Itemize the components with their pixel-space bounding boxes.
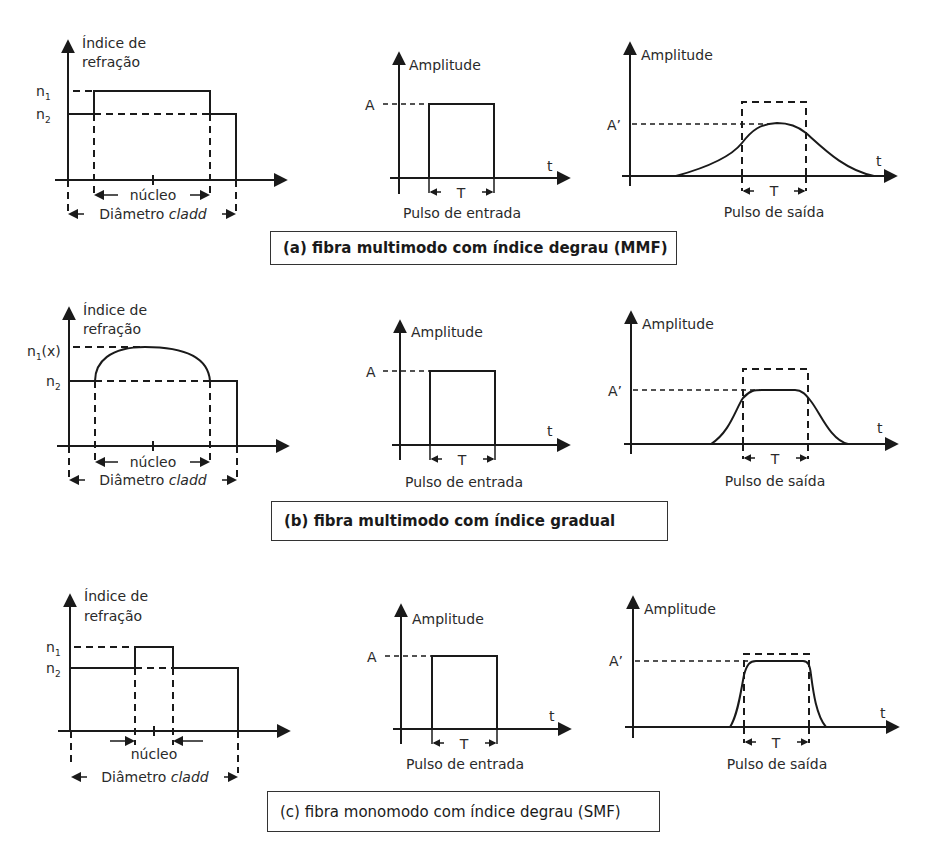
time-label: t xyxy=(876,153,882,169)
y-axis-label-2: refração xyxy=(83,321,141,337)
time-label: t xyxy=(547,158,553,174)
cladding-label: Diâmetro cladd xyxy=(101,769,209,785)
amplitude-label: Amplitude xyxy=(409,57,481,73)
output-pulse-caption: Pulso de saída xyxy=(725,473,825,489)
period-label: T xyxy=(770,451,780,467)
time-label: t xyxy=(547,423,553,439)
output-pulse-caption: Pulso de saída xyxy=(727,756,827,772)
time-label: t xyxy=(549,708,555,724)
panel-c: Índice de refração n1 n2 núcleo Diâmetro… xyxy=(46,588,897,785)
profile-b-refractive-index: Índice de refração n1(x) n2 núcleo Diâme… xyxy=(27,302,287,488)
input-pulse-caption: Pulso de entrada xyxy=(403,205,521,221)
output-pulse-a: Amplitude A’ t T Pulso de saída xyxy=(607,44,895,220)
input-pulse-a: Amplitude A t T Pulso de entrada xyxy=(365,54,568,221)
profile-c-refractive-index: Índice de refração n1 n2 núcleo Diâmetro… xyxy=(46,588,288,785)
amplitude-label: Amplitude xyxy=(411,324,483,340)
n1-label: n1 xyxy=(46,639,61,658)
profile-a-refractive-index: Índice de refração n1 n2 núcleo Diâmetro… xyxy=(36,35,285,222)
core-label: núcleo xyxy=(130,454,177,470)
amplitude-level-label: A xyxy=(366,364,376,380)
y-axis-label: Índice de xyxy=(83,302,147,318)
amplitude-level-label: A’ xyxy=(609,653,623,669)
input-pulse-caption: Pulso de entrada xyxy=(405,474,523,490)
period-label: T xyxy=(769,183,779,199)
cladding-label: Diâmetro cladd xyxy=(99,472,207,488)
time-label: t xyxy=(880,705,886,721)
amplitude-label: Amplitude xyxy=(644,601,716,617)
cladding-label: Diâmetro cladd xyxy=(99,206,207,222)
amplitude-level-label: A xyxy=(367,649,377,665)
amplitude-level-label: A xyxy=(365,97,375,113)
period-label: T xyxy=(459,736,469,752)
caption-b: (b) fibra multimodo com índice gradual xyxy=(271,501,668,541)
n2-label: n2 xyxy=(46,373,61,392)
panel-a: Índice de refração n1 n2 núcleo Diâmetro… xyxy=(36,35,895,222)
input-pulse-b: Amplitude A t T Pulso de entrada xyxy=(366,322,568,490)
caption-a: (a) fibra multimodo com índice degrau (M… xyxy=(270,231,677,265)
output-pulse-b: Amplitude A’ t T Pulso de saída xyxy=(608,313,896,489)
caption-c: (c) fibra monomodo com índice degrau (SM… xyxy=(267,791,660,832)
amplitude-level-label: A’ xyxy=(608,383,622,399)
input-pulse-caption: Pulso de entrada xyxy=(406,756,524,772)
y-axis-label: Índice de xyxy=(82,35,146,51)
n2-label: n2 xyxy=(46,660,61,679)
period-label: T xyxy=(456,185,466,201)
output-pulse-caption: Pulso de saída xyxy=(724,204,824,220)
amplitude-label: Amplitude xyxy=(642,316,714,332)
fiber-dispersion-diagram: Índice de refração n1 n2 núcleo Diâmetro… xyxy=(0,0,929,858)
core-label: núcleo xyxy=(130,187,177,203)
period-label: T xyxy=(457,452,467,468)
panel-b: Índice de refração n1(x) n2 núcleo Diâme… xyxy=(27,302,896,490)
amplitude-label: Amplitude xyxy=(412,611,484,627)
amplitude-level-label: A’ xyxy=(607,117,621,133)
amplitude-label: Amplitude xyxy=(641,47,713,63)
core-label: núcleo xyxy=(131,746,178,762)
input-pulse-c: Amplitude A t T Pulso de entrada xyxy=(367,606,569,772)
y-axis-label: Índice de xyxy=(84,588,148,604)
n1x-label: n1(x) xyxy=(27,343,61,362)
time-label: t xyxy=(877,420,883,436)
output-pulse-c: Amplitude A’ t T Pulso de saída xyxy=(609,598,897,772)
y-axis-label-2: refração xyxy=(82,54,140,70)
y-axis-label-2: refração xyxy=(84,608,142,624)
period-label: T xyxy=(771,735,781,751)
n2-label: n2 xyxy=(36,106,51,125)
n1-label: n1 xyxy=(36,83,51,102)
